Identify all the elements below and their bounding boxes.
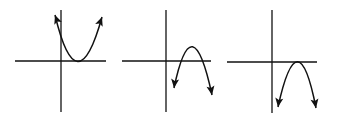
graph-2 [122, 10, 216, 112]
arrowhead-icon [170, 79, 179, 89]
parabola-curve [174, 47, 212, 95]
graph-3 [227, 10, 320, 113]
parabola-curve [55, 15, 102, 62]
parabola-curve [278, 62, 316, 108]
arrowhead-icon [95, 16, 106, 27]
graph-1 [15, 10, 106, 112]
parabola-diagram [0, 0, 338, 117]
